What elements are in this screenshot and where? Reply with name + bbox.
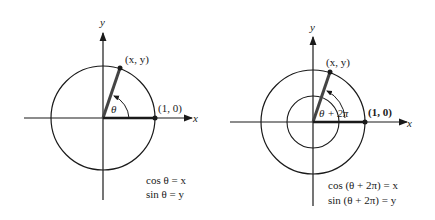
- sin-equation: sin (θ + 2π) = y: [328, 194, 397, 207]
- right-figure: y x (x, y) (1, 0) θ + 2π cos (θ + 2π) = …: [230, 21, 412, 207]
- unit-point-label: (1, 0): [158, 102, 182, 115]
- point-dot: [118, 66, 123, 71]
- unit-point-dot: [363, 120, 368, 125]
- point-label: (x, y): [125, 53, 149, 66]
- left-figure: y x (x, y) (1, 0) θ cos θ = x sin θ = y: [24, 16, 198, 200]
- cos-equation: cos (θ + 2π) = x: [328, 179, 398, 192]
- y-axis-label: y: [309, 21, 315, 33]
- angle-label: θ: [111, 103, 117, 115]
- y-axis-label: y: [99, 16, 105, 28]
- point-label: (x, y): [326, 56, 350, 69]
- x-axis-label: x: [406, 117, 412, 129]
- angle-label: θ + 2π: [319, 107, 349, 119]
- point-dot: [328, 70, 333, 75]
- sin-equation: sin θ = y: [146, 188, 185, 200]
- cos-equation: cos θ = x: [146, 174, 186, 186]
- x-axis-label: x: [192, 112, 198, 124]
- unit-point-label: (1, 0): [368, 106, 392, 119]
- unit-circle-diagrams: y x (x, y) (1, 0) θ cos θ = x sin θ = y …: [0, 0, 435, 220]
- unit-point-dot: [153, 116, 158, 121]
